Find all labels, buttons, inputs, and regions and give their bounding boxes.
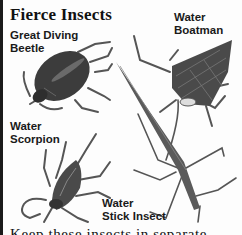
label-line: Beetle [10,42,78,55]
book-page: Fierce Insects Great Diving Beetle Water… [0,0,242,235]
water-scorpion-illustration [22,134,110,222]
label-line: Water [10,120,60,133]
great-diving-beetle-label: Great Diving Beetle [10,29,78,55]
label-line: Water [102,197,166,210]
water-stick-insect-label: Water Stick Insect [102,197,166,223]
water-boatman-label: Water Boatman [174,11,223,37]
label-line: Water [174,11,223,24]
body-text: Keep these insects in separate [10,226,207,235]
label-line: Great Diving [10,29,78,42]
page-title: Fierce Insects [10,5,112,25]
label-line: Stick Insect [102,210,166,223]
label-line: Boatman [174,24,223,37]
label-line: Scorpion [10,133,60,146]
water-scorpion-label: Water Scorpion [10,120,60,146]
